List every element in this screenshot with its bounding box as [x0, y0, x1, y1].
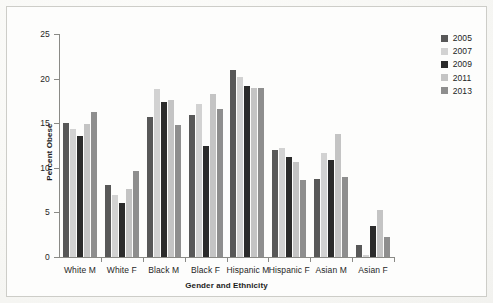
bar[interactable] [133, 171, 139, 257]
y-tick-label: 15 [40, 118, 50, 128]
legend-item-label: 2013 [453, 86, 472, 96]
bar[interactable] [161, 102, 167, 257]
bar[interactable] [217, 109, 223, 257]
plot-area: 0510152025 White MWhite FBlack MBlack FH… [59, 34, 394, 257]
bar[interactable] [189, 115, 195, 257]
bar[interactable] [237, 77, 243, 257]
bar-group-bars [268, 34, 310, 257]
bar[interactable] [328, 160, 334, 257]
bar-group [59, 34, 101, 257]
x-tick-mark [227, 257, 228, 262]
legend-swatch-icon [441, 87, 448, 94]
x-tick-mark [352, 257, 353, 262]
legend: 20052007200920112013 [441, 33, 472, 96]
bar[interactable] [293, 162, 299, 257]
x-tick-label: Hispanic F [268, 265, 310, 275]
bar[interactable] [286, 157, 292, 257]
x-tick-mark [394, 257, 395, 262]
y-tick-label: 20 [40, 74, 50, 84]
x-tick-label: Asian F [352, 265, 394, 275]
bar-group [268, 34, 310, 257]
legend-swatch-icon [441, 48, 448, 55]
x-tick-label: Asian M [310, 265, 352, 275]
bar[interactable] [321, 153, 327, 257]
x-tick-mark [268, 257, 269, 262]
bar[interactable] [210, 94, 216, 257]
bar[interactable] [119, 203, 125, 257]
bar-group [143, 34, 185, 257]
chart-frame: Percent Obese Gender and Ethnicity 05101… [6, 6, 487, 297]
bar[interactable] [91, 112, 97, 257]
x-axis-title: Gender and Ethnicity [59, 281, 394, 290]
bar[interactable] [77, 136, 83, 257]
bar[interactable] [363, 255, 369, 257]
y-tick-label: 25 [40, 29, 50, 39]
bar[interactable] [279, 148, 285, 257]
legend-item-label: 2005 [453, 33, 472, 43]
bar-group [101, 34, 143, 257]
bar[interactable] [154, 89, 160, 257]
bar-group-bars [101, 34, 143, 257]
bar[interactable] [377, 210, 383, 257]
bar[interactable] [335, 134, 341, 257]
bar[interactable] [342, 177, 348, 257]
y-tick-label: 0 [45, 252, 50, 262]
x-tick-mark [143, 257, 144, 262]
bar-group-bars [59, 34, 101, 257]
bar[interactable] [63, 123, 69, 257]
legend-swatch-icon [441, 74, 448, 81]
y-tick-label: 10 [40, 163, 50, 173]
bar-group [185, 34, 227, 257]
bar[interactable] [70, 129, 76, 257]
x-tick-mark [310, 257, 311, 262]
bar[interactable] [300, 180, 306, 257]
x-tick-mark [185, 257, 186, 262]
x-tick-mark [101, 257, 102, 262]
legend-item[interactable]: 2011 [441, 73, 472, 83]
x-tick-label: Black M [143, 265, 185, 275]
y-tick-mark [54, 257, 59, 258]
bar[interactable] [126, 189, 132, 257]
legend-swatch-icon [441, 35, 448, 42]
legend-item[interactable]: 2007 [441, 46, 472, 56]
x-tick-label: Hispanic M [227, 265, 269, 275]
bar[interactable] [258, 88, 264, 257]
bar[interactable] [112, 195, 118, 257]
bar[interactable] [105, 185, 111, 257]
legend-item-label: 2011 [453, 73, 472, 83]
bar[interactable] [251, 88, 257, 257]
y-tick-label: 5 [45, 207, 50, 217]
bar[interactable] [203, 146, 209, 258]
bar[interactable] [147, 117, 153, 257]
bar[interactable] [168, 100, 174, 257]
x-tick-label: Black F [185, 265, 227, 275]
bar[interactable] [230, 70, 236, 257]
legend-item[interactable]: 2009 [441, 59, 472, 69]
legend-swatch-icon [441, 61, 448, 68]
bar[interactable] [384, 237, 390, 257]
x-tick-label: White M [59, 265, 101, 275]
bar-group-bars [143, 34, 185, 257]
legend-item-label: 2009 [453, 59, 472, 69]
bar-group [227, 34, 269, 257]
legend-item[interactable]: 2005 [441, 33, 472, 43]
bar-group-bars [185, 34, 227, 257]
bar[interactable] [356, 245, 362, 257]
bar-group-bars [227, 34, 269, 257]
bar[interactable] [175, 125, 181, 257]
bar-group-bars [352, 34, 394, 257]
bar-group [352, 34, 394, 257]
legend-item[interactable]: 2013 [441, 86, 472, 96]
bar[interactable] [244, 86, 250, 257]
bar[interactable] [196, 104, 202, 257]
bar-group-bars [310, 34, 352, 257]
legend-item-label: 2007 [453, 46, 472, 56]
bar-group [310, 34, 352, 257]
bar[interactable] [272, 150, 278, 257]
x-tick-label: White F [101, 265, 143, 275]
bar[interactable] [370, 226, 376, 257]
bar[interactable] [314, 179, 320, 257]
bar[interactable] [84, 124, 90, 257]
